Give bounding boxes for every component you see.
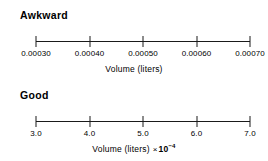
axis-tick-label: 6.0 [191,129,202,138]
axis-tick-label: 0.00040 [75,49,105,58]
number-line-awkward: 0.00030 0.00040 0.00050 0.00060 0.00070 … [0,33,268,79]
axis-tick [89,116,90,127]
axis-tick [250,36,251,47]
axis-tick-label: 7.0 [244,129,255,138]
multiplication-sign: × [153,145,158,154]
axis-title-awkward: Volume (liters) [0,64,268,74]
axis-tick [36,36,37,47]
axis-tick-label: 5.0 [137,129,148,138]
axis-tick [36,116,37,127]
axis-title-text: Volume (liters) [105,64,162,74]
axis-tick [143,116,144,127]
panel-label-awkward: Awkward [20,9,68,21]
axis-tick-label: 0.00060 [182,49,212,58]
axis-tick [196,116,197,127]
panel-label-good: Good [20,89,49,101]
axis-tick-label: 3.0 [30,129,41,138]
axis-tick-label: 4.0 [84,129,95,138]
axis-tick [250,116,251,127]
axis-tick-label: 0.00030 [21,49,51,58]
exponent-value: −4 [168,143,175,149]
axis-tick [143,36,144,47]
exponent-base: 10 [159,144,169,154]
number-line-good: 3.0 4.0 5.0 6.0 7.0 Volume (liters)×10−4 [0,113,268,159]
axis-tick [89,36,90,47]
axis-title-good: Volume (liters)×10−4 [0,144,268,154]
axis-tick [196,36,197,47]
axis-title-text: Volume (liters) [92,144,149,154]
axis-tick-label: 0.00050 [128,49,158,58]
axis-tick-label: 0.00070 [235,49,265,58]
